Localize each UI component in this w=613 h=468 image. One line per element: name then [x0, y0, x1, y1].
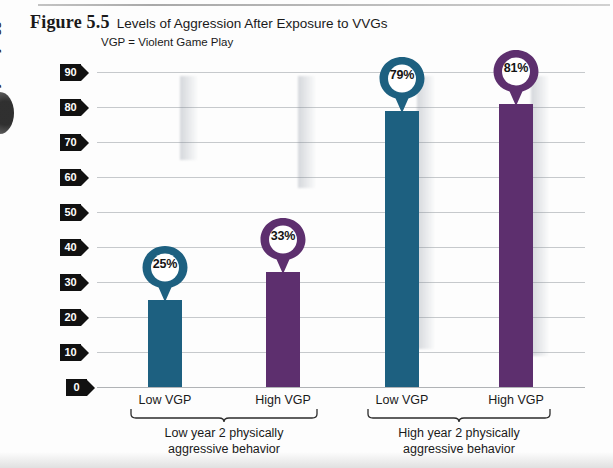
- y-axis-tick: 0: [66, 379, 95, 396]
- page-top-rule: [38, 4, 610, 6]
- group-brace: [130, 409, 318, 423]
- bar-value-label: 25%: [141, 257, 189, 271]
- y-axis-tick-arrow-icon: [81, 170, 89, 186]
- y-axis-tick-arrow-icon: [81, 65, 89, 81]
- y-axis-tick-arrow-icon: [81, 135, 89, 151]
- chart-plot-area: 010203040506070809025%33%79%81%: [97, 72, 585, 387]
- y-axis-title-line2: Physically Aggressive Behavior (percent): [0, 0, 3, 150]
- value-pin-marker: 79%: [378, 55, 426, 115]
- bar-shadow: [531, 76, 548, 356]
- y-axis-tick-label: 90: [60, 64, 81, 81]
- x-axis-category-label: Low VGP: [347, 393, 457, 407]
- map-pin-icon: [492, 48, 540, 108]
- y-axis-tick-arrow-icon: [81, 345, 89, 361]
- curly-brace-icon: [130, 409, 318, 423]
- gridline: [97, 387, 585, 388]
- y-axis-tick: 30: [60, 274, 89, 291]
- x-axis-category-label: High VGP: [228, 393, 338, 407]
- bar-high-vgp-high-year2[interactable]: [499, 104, 533, 388]
- figure-note: VGP = Violent Game Play: [101, 36, 233, 48]
- group-label-line1: High year 2 physically: [367, 425, 551, 441]
- y-axis-tick: 70: [60, 134, 89, 151]
- group-label: Low year 2 physicallyaggressive behavior: [130, 425, 318, 457]
- y-axis-tick: 40: [60, 239, 89, 256]
- y-axis-tick-label: 80: [60, 99, 81, 116]
- y-axis-tick-label: 30: [60, 274, 81, 291]
- group-label-line1: Low year 2 physically: [130, 425, 318, 441]
- bar-shadow: [417, 76, 434, 349]
- group-label: High year 2 physicallyaggressive behavio…: [367, 425, 551, 457]
- y-axis-tick-arrow-icon: [81, 100, 89, 116]
- y-axis-tick: 10: [60, 344, 89, 361]
- y-axis-tick-label: 50: [60, 204, 81, 221]
- y-axis-tick: 90: [60, 64, 89, 81]
- figure-header: Figure 5.5Levels of Aggression After Exp…: [30, 12, 388, 33]
- group-label-line2: aggressive behavior: [130, 441, 318, 457]
- y-axis-tick-arrow-icon: [87, 380, 95, 396]
- y-axis-tick-arrow-icon: [81, 240, 89, 256]
- map-pin-icon: [378, 55, 426, 115]
- bar-value-label: 79%: [378, 68, 426, 82]
- y-axis-tick: 60: [60, 169, 89, 186]
- group-label-line2: aggressive behavior: [367, 441, 551, 457]
- figure-number: Figure 5.5: [30, 12, 110, 32]
- value-pin-marker: 33%: [259, 216, 307, 276]
- bar-high-vgp-low-year2[interactable]: [266, 272, 300, 388]
- bar-value-label: 81%: [492, 61, 540, 75]
- x-axis-category-label: High VGP: [461, 393, 571, 407]
- value-pin-marker: 25%: [141, 244, 189, 304]
- y-axis-tick-label: 60: [60, 169, 81, 186]
- y-axis-tick-label: 20: [60, 309, 81, 326]
- y-axis-tick-label: 70: [60, 134, 81, 151]
- y-axis-tick-label: 10: [60, 344, 81, 361]
- y-axis-title: Students Above Median on Year 3 Physical…: [0, 0, 3, 150]
- bar-shadow: [298, 76, 315, 188]
- y-axis-tick-arrow-icon: [81, 205, 89, 221]
- bar-shadow: [180, 76, 197, 160]
- bar-low-vgp-low-year2[interactable]: [148, 300, 182, 388]
- y-axis-tick-arrow-icon: [81, 310, 89, 326]
- bar-low-vgp-high-year2[interactable]: [385, 111, 419, 388]
- map-pin-icon: [141, 244, 189, 304]
- x-axis-category-label: Low VGP: [110, 393, 220, 407]
- y-axis-tick-label: 0: [66, 379, 87, 396]
- group-brace: [367, 409, 551, 423]
- y-axis-tick-arrow-icon: [81, 275, 89, 291]
- y-axis-tick: 50: [60, 204, 89, 221]
- bar-value-label: 33%: [259, 229, 307, 243]
- y-axis-tick: 20: [60, 309, 89, 326]
- figure-title: Levels of Aggression After Exposure to V…: [117, 16, 388, 31]
- y-axis-tick-label: 40: [60, 239, 81, 256]
- curly-brace-icon: [367, 409, 551, 423]
- y-axis-tick: 80: [60, 99, 89, 116]
- map-pin-icon: [259, 216, 307, 276]
- value-pin-marker: 81%: [492, 48, 540, 108]
